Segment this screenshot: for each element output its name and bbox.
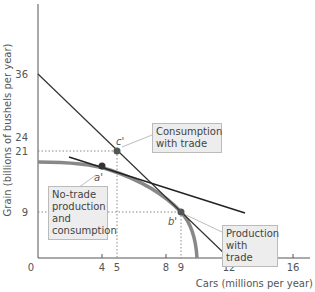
point-c bbox=[114, 148, 121, 155]
y-axis-label: Grain (billions of bushels per year) bbox=[2, 43, 13, 216]
label-a: a' bbox=[94, 172, 103, 183]
xtick-4: 4 bbox=[99, 262, 105, 273]
x-axis-label: Cars (millions per year) bbox=[196, 278, 313, 289]
xtick-16: 16 bbox=[287, 262, 300, 273]
annotation-production-with-trade: Production with trade bbox=[222, 225, 278, 267]
annotation-consumption-with-trade: Consumption with trade bbox=[152, 123, 222, 153]
label-c: c' bbox=[116, 136, 124, 147]
ytick-21: 21 bbox=[15, 146, 28, 157]
xtick-5: 5 bbox=[114, 262, 120, 273]
xtick-8: 8 bbox=[163, 262, 169, 273]
ytick-9: 9 bbox=[22, 207, 28, 218]
point-b bbox=[178, 209, 185, 216]
ytick-36: 36 bbox=[15, 69, 28, 80]
ytick-24: 24 bbox=[15, 132, 28, 143]
xtick-0: 0 bbox=[28, 262, 34, 273]
label-b: b' bbox=[168, 216, 177, 227]
annotation-notrade: No-trade production and consumption bbox=[48, 186, 108, 240]
xtick-9: 9 bbox=[178, 262, 184, 273]
point-a bbox=[99, 163, 106, 170]
